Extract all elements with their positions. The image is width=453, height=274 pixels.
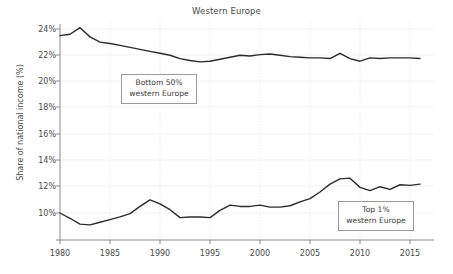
y-tick-label-20: 20% (22, 77, 56, 86)
chart-title: Western Europe (0, 6, 453, 16)
x-tick-label-2015: 2015 (390, 249, 430, 258)
bottom-50-annotation-line1: Bottom 50% (128, 78, 190, 89)
x-tick-label-1990: 1990 (140, 249, 180, 258)
top-1-annotation: Top 1% western Europe (338, 201, 414, 231)
x-tick-label-2005: 2005 (290, 249, 330, 258)
chart-figure: Western Europe Share of national income … (0, 0, 453, 274)
line-series-bottom-50 (60, 28, 420, 62)
plot-area (0, 0, 453, 274)
x-tick-label-1980: 1980 (40, 249, 80, 258)
top-1-annotation-line1: Top 1% (345, 205, 407, 216)
bottom-50-annotation: Bottom 50% western Europe (121, 74, 197, 104)
x-tick-label-1985: 1985 (90, 249, 130, 258)
x-tick-label-1995: 1995 (190, 249, 230, 258)
y-tick-label-12: 12% (22, 182, 56, 191)
y-tick-label-18: 18% (22, 103, 56, 112)
y-axis-label: Share of national income (%) (16, 43, 25, 203)
y-tick-label-22: 22% (22, 51, 56, 60)
x-tick-label-2010: 2010 (340, 249, 380, 258)
y-tick-label-14: 14% (22, 156, 56, 165)
y-tick-label-24: 24% (22, 25, 56, 34)
bottom-50-annotation-line2: western Europe (128, 89, 190, 100)
y-tick-label-10: 10% (22, 209, 56, 218)
x-tick-label-2000: 2000 (240, 249, 280, 258)
top-1-annotation-line2: western Europe (345, 216, 407, 227)
y-tick-label-16: 16% (22, 130, 56, 139)
